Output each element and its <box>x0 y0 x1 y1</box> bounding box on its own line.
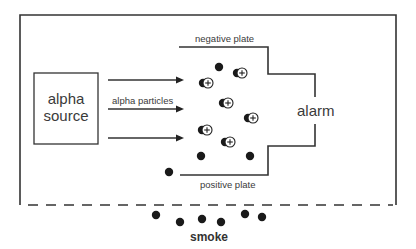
smoke-particle-icon <box>198 215 206 223</box>
smoke-particle-icon <box>176 218 184 226</box>
negative-plate-label: negative plate <box>195 33 254 44</box>
particle-dot-icon <box>215 63 223 71</box>
smoke-label: smoke <box>190 230 228 244</box>
smoke-particle-icon <box>152 211 160 219</box>
alpha-source-label: alpha source <box>34 90 98 124</box>
arrowhead-icon <box>176 77 184 84</box>
ion-pair <box>219 98 233 108</box>
smoke-particle-icon <box>217 218 225 226</box>
ion-pair <box>233 68 247 78</box>
alpha-source-label-line1: alpha <box>34 90 98 107</box>
alarm-label: alarm <box>297 102 335 119</box>
smoke-particle-icon <box>258 213 266 221</box>
ion-pair <box>198 125 212 135</box>
smoke-particle-icon <box>241 210 249 218</box>
alpha-source-label-line2: source <box>34 107 98 124</box>
arrowhead-icon <box>176 106 184 113</box>
particle-dot-icon <box>246 152 254 160</box>
particle-dot-icon <box>165 168 173 176</box>
alpha-particles-label: alpha particles <box>112 95 173 106</box>
ion-pair <box>221 137 235 147</box>
particle-dot-icon <box>197 152 205 160</box>
ion-pair <box>199 78 213 88</box>
positive-plate-label: positive plate <box>200 179 255 190</box>
arrowhead-icon <box>176 135 184 142</box>
ion-pair <box>244 113 258 123</box>
